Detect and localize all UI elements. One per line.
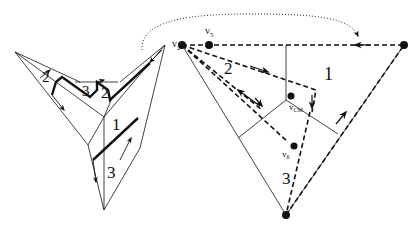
right-label-3: 3: [282, 169, 291, 188]
left-label-2a: 2: [42, 69, 50, 85]
diagram-canvas: 2 3 2 1 3: [0, 0, 418, 230]
label-v6: v6: [282, 149, 290, 160]
right-triangle: [182, 45, 404, 215]
right-region-labels: 2 1 3: [224, 59, 333, 188]
right-label-1: 1: [324, 64, 333, 84]
label-vcm: vCM: [289, 102, 304, 113]
left-folded-path: [52, 63, 150, 160]
vertex-vcm: [288, 93, 295, 100]
left-label-3a: 3: [82, 83, 90, 99]
left-label-3b: 3: [107, 163, 116, 182]
vertex-v5: [205, 41, 213, 49]
label-v5: v5: [205, 25, 214, 39]
left-label-1: 1: [112, 115, 121, 134]
vertex-bottom: [282, 211, 290, 219]
right-label-2: 2: [224, 59, 233, 78]
label-v2: v2: [172, 38, 181, 52]
left-label-2b: 2: [101, 85, 109, 101]
right-vertices: [178, 41, 408, 219]
vertex-right: [400, 41, 408, 49]
right-dashed-paths: [182, 45, 404, 215]
vertex-v6: [291, 143, 298, 150]
